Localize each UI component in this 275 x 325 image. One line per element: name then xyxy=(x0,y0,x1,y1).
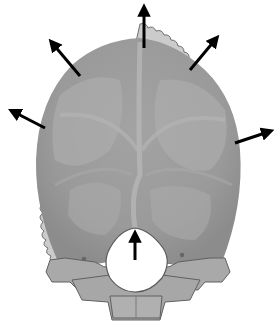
arrow-upper-right-icon xyxy=(190,40,215,70)
foramen-right xyxy=(180,253,184,257)
skull-vault-illustration xyxy=(0,0,275,325)
arrow-right-icon xyxy=(235,132,268,143)
arrow-left-icon xyxy=(14,112,45,128)
foramen-left xyxy=(82,257,86,261)
